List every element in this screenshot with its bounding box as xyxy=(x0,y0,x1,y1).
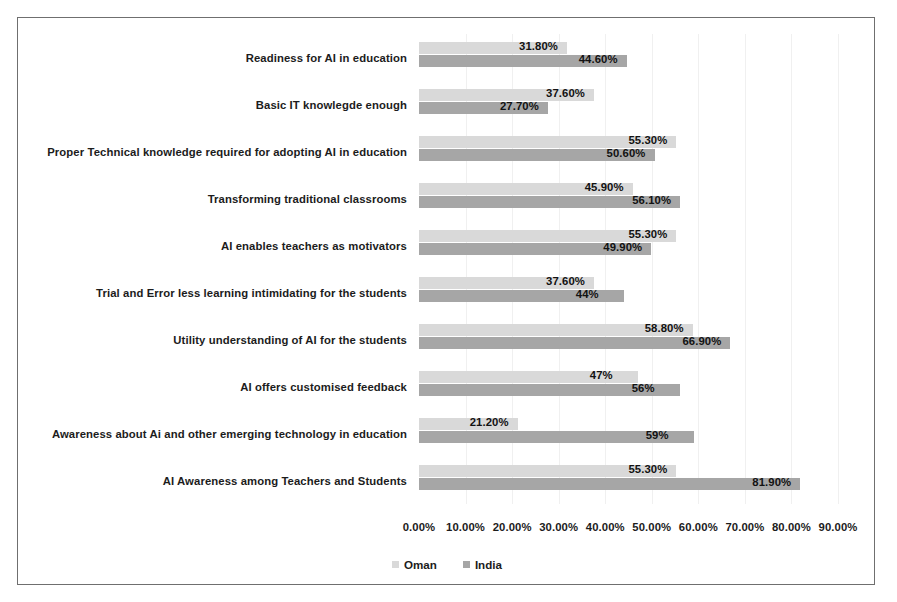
bar-value-label: 44.60% xyxy=(579,53,618,65)
bar-group: 37.60%44% xyxy=(419,269,876,316)
bar-row: AI offers customised feedback47%56% xyxy=(18,363,876,410)
bar-value-label: 55.30% xyxy=(628,463,667,475)
category-label: Basic IT knowlegde enough xyxy=(22,97,407,112)
bar-value-label: 56% xyxy=(632,382,655,394)
category-label: AI Awareness among Teachers and Students xyxy=(22,473,407,488)
category-label: Proper Technical knowledge required for … xyxy=(22,144,407,159)
legend-swatch-icon xyxy=(392,561,399,568)
bar-group: 37.60%27.70% xyxy=(419,81,876,128)
bar-india xyxy=(419,478,800,490)
bar-value-label: 47% xyxy=(590,369,613,381)
x-tick-label: 50.00% xyxy=(632,521,671,533)
bar-group: 55.30%49.90% xyxy=(419,222,876,269)
category-label: Awareness about Ai and other emerging te… xyxy=(22,426,407,441)
legend-item-oman[interactable]: Oman xyxy=(392,558,437,571)
bar-group: 45.90%56.10% xyxy=(419,175,876,222)
category-label: AI enables teachers as motivators xyxy=(22,238,407,253)
x-tick-label: 10.00% xyxy=(446,521,485,533)
bar-group: 55.30%50.60% xyxy=(419,128,876,175)
bar-row: AI enables teachers as motivators55.30%4… xyxy=(18,222,876,269)
bar-value-label: 49.90% xyxy=(603,241,642,253)
legend-label: Oman xyxy=(404,558,437,571)
bar-value-label: 50.60% xyxy=(607,147,646,159)
x-tick-label: 20.00% xyxy=(493,521,532,533)
bar-row: Transforming traditional classrooms45.90… xyxy=(18,175,876,222)
x-tick-label: 60.00% xyxy=(679,521,718,533)
bar-row: Proper Technical knowledge required for … xyxy=(18,128,876,175)
x-tick-label: 0.00% xyxy=(403,521,436,533)
bar-value-label: 55.30% xyxy=(628,228,667,240)
x-tick-label: 30.00% xyxy=(539,521,578,533)
category-label: Transforming traditional classrooms xyxy=(22,191,407,206)
x-tick-label: 40.00% xyxy=(586,521,625,533)
bar-row: AI Awareness among Teachers and Students… xyxy=(18,457,876,504)
bar-row: Trial and Error less learning intimidati… xyxy=(18,269,876,316)
bar-group: 47%56% xyxy=(419,363,876,410)
bar-row: Readiness for AI in education31.80%44.60… xyxy=(18,34,876,81)
category-label: Trial and Error less learning intimidati… xyxy=(22,285,407,300)
bar-value-label: 45.90% xyxy=(585,181,624,193)
bar-value-label: 27.70% xyxy=(500,100,539,112)
bar-group: 55.30%81.90% xyxy=(419,457,876,504)
legend-swatch-icon xyxy=(463,561,470,568)
x-axis-tick-labels: 0.00%10.00%20.00%30.00%40.00%50.00%60.00… xyxy=(18,521,876,543)
x-tick-label: 80.00% xyxy=(772,521,811,533)
category-label: AI offers customised feedback xyxy=(22,379,407,394)
bar-value-label: 58.80% xyxy=(645,322,684,334)
category-label: Readiness for AI in education xyxy=(22,50,407,65)
bar-value-label: 37.60% xyxy=(546,275,585,287)
bar-group: 31.80%44.60% xyxy=(419,34,876,81)
chart-legend: OmanIndia xyxy=(18,558,876,571)
bar-group: 58.80%66.90% xyxy=(419,316,876,363)
x-tick-label: 70.00% xyxy=(725,521,764,533)
bar-value-label: 21.20% xyxy=(470,416,509,428)
bar-value-label: 44% xyxy=(576,288,599,300)
bar-value-label: 55.30% xyxy=(628,134,667,146)
chart-frame: Readiness for AI in education31.80%44.60… xyxy=(17,17,875,585)
bar-value-label: 31.80% xyxy=(519,40,558,52)
bar-group: 21.20%59% xyxy=(419,410,876,457)
bar-row: Utility understanding of AI for the stud… xyxy=(18,316,876,363)
bar-value-label: 56.10% xyxy=(632,194,671,206)
category-label: Utility understanding of AI for the stud… xyxy=(22,332,407,347)
bar-row: Awareness about Ai and other emerging te… xyxy=(18,410,876,457)
bar-value-label: 81.90% xyxy=(752,476,791,488)
x-tick-label: 90.00% xyxy=(819,521,858,533)
bar-value-label: 37.60% xyxy=(546,87,585,99)
bar-rows: Readiness for AI in education31.80%44.60… xyxy=(18,34,876,504)
bar-row: Basic IT knowlegde enough37.60%27.70% xyxy=(18,81,876,128)
legend-item-india[interactable]: India xyxy=(463,558,502,571)
bar-value-label: 59% xyxy=(646,429,669,441)
bar-value-label: 66.90% xyxy=(682,335,721,347)
legend-label: India xyxy=(475,558,502,571)
